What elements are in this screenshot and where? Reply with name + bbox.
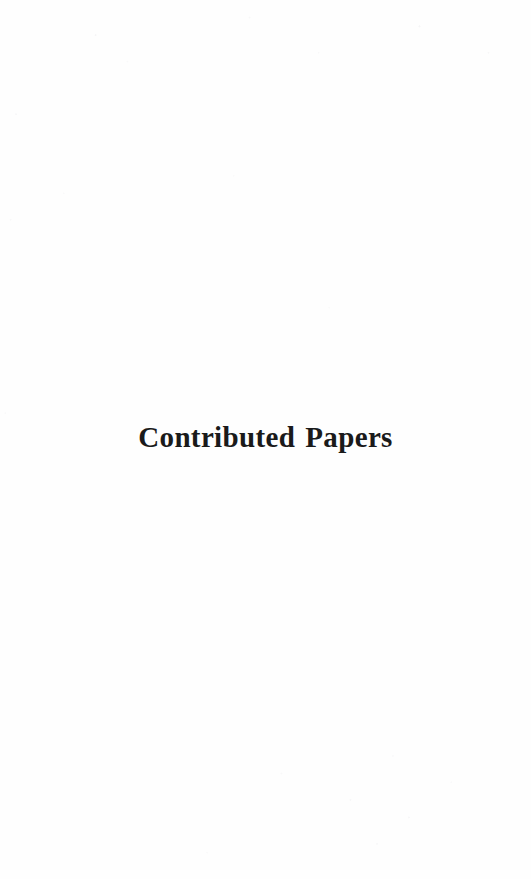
scanned-page: Contributed Papers xyxy=(0,0,531,879)
page-title: Contributed Papers xyxy=(138,420,393,454)
section-divider-title-block: Contributed Papers xyxy=(0,420,531,454)
